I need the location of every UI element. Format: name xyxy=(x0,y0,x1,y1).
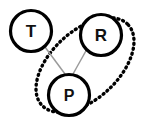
node-r[interactable]: R xyxy=(81,15,122,56)
edge-t-p[interactable] xyxy=(45,47,65,74)
diagram-canvas: T R P xyxy=(0,0,146,127)
graph-svg: T R P xyxy=(0,0,146,127)
node-t-label: T xyxy=(26,22,37,41)
node-p-label: P xyxy=(64,87,75,104)
node-r-label: R xyxy=(95,26,107,45)
node-p[interactable]: P xyxy=(49,75,90,116)
node-t[interactable]: T xyxy=(11,11,52,52)
edge-r-p[interactable] xyxy=(73,49,87,74)
